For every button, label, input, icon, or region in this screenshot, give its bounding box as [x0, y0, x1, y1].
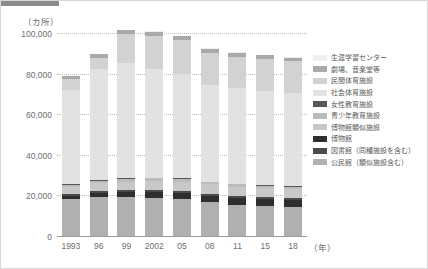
stacked-bar[interactable] — [62, 76, 80, 236]
legend-item[interactable]: 青少年教育施設 — [313, 110, 425, 122]
plot-area: 020,00040,00060,00080,000100,000 1993969… — [57, 33, 307, 236]
legend-swatch — [313, 136, 327, 142]
bar-slot: 08 — [196, 33, 224, 236]
legend-swatch — [313, 148, 327, 154]
x-axis-unit-label: （年） — [309, 241, 336, 253]
x-axis-tick-label: 11 — [233, 241, 242, 251]
corner-tab-decoration — [1, 1, 59, 6]
stacked-bar[interactable] — [256, 55, 274, 236]
bar-group: 1993969920020508111518 — [57, 33, 307, 236]
legend-item-label: 公民館（類似施設含む） — [331, 159, 408, 166]
bar-segment — [117, 34, 135, 62]
chart-figure: （カ所） 020,00040,00060,00080,000100,000 19… — [0, 0, 428, 269]
x-axis-tick-label: 96 — [94, 241, 103, 251]
legend-item[interactable]: 女性教育施設 — [313, 98, 425, 110]
bar-slot: 99 — [113, 33, 141, 236]
legend-swatch — [313, 101, 327, 107]
bar-segment — [256, 188, 274, 197]
bar-segment — [62, 79, 80, 90]
legend-item[interactable]: 劇場、音楽堂等 — [313, 64, 425, 76]
bar-slot: 18 — [279, 33, 307, 236]
x-axis-tick-label: 99 — [122, 241, 131, 251]
bar-segment — [201, 85, 219, 181]
bar-segment — [256, 91, 274, 185]
bar-segment — [62, 90, 80, 184]
legend-swatch — [313, 90, 327, 96]
bar-segment — [228, 205, 246, 236]
legend-item-label: 博物館 — [331, 135, 352, 142]
gridline-0: 0 — [57, 236, 307, 237]
y-axis-tick-label: 100,000 — [21, 29, 52, 39]
stacked-bar[interactable] — [90, 54, 108, 236]
bar-segment — [90, 197, 108, 236]
legend-swatch — [313, 113, 327, 119]
legend-swatch — [313, 55, 327, 61]
legend-swatch — [313, 78, 327, 84]
legend-item-label: 女性教育施設 — [331, 101, 373, 108]
bar-segment — [201, 202, 219, 236]
y-axis-unit-label: （カ所） — [23, 15, 59, 27]
legend-item[interactable]: 民間体育施設 — [313, 75, 425, 87]
legend-item-label: 生涯学習センター — [331, 54, 387, 61]
legend-item-label: 劇場、音楽堂等 — [331, 66, 380, 73]
bar-segment — [228, 187, 246, 196]
legend-swatch — [313, 159, 327, 165]
x-axis-tick-label: 15 — [261, 241, 270, 251]
x-axis-tick-label: 08 — [205, 241, 214, 251]
legend-item[interactable]: 博物館類似施設 — [313, 122, 425, 134]
bar-segment — [284, 200, 302, 207]
bar-slot: 96 — [85, 33, 113, 236]
bar-segment — [173, 199, 191, 236]
bar-segment — [256, 206, 274, 236]
bar-segment — [201, 53, 219, 85]
stacked-bar[interactable] — [201, 48, 219, 236]
legend-item-label: 図書館（同種施設を含む） — [331, 147, 415, 154]
legend-item-label: 青少年教育施設 — [331, 112, 380, 119]
legend-item[interactable]: 博物館 — [313, 133, 425, 145]
stacked-bar[interactable] — [228, 52, 246, 236]
bar-slot: 11 — [224, 33, 252, 236]
y-axis-tick-label: 60,000 — [26, 110, 52, 120]
bar-segment — [145, 181, 163, 190]
legend-item[interactable]: 公民館（類似施設含む） — [313, 156, 425, 168]
bar-segment — [117, 197, 135, 236]
x-axis-tick-label: 2002 — [145, 241, 164, 251]
bar-segment — [256, 199, 274, 206]
bar-slot: 05 — [168, 33, 196, 236]
bar-segment — [90, 69, 108, 180]
y-axis-tick-label: 20,000 — [26, 191, 52, 201]
y-axis-tick-label: 40,000 — [26, 151, 52, 161]
stacked-bar[interactable] — [145, 31, 163, 236]
bar-segment — [62, 199, 80, 236]
legend-swatch — [313, 66, 327, 72]
stacked-bar[interactable] — [117, 30, 135, 236]
bar-segment — [284, 207, 302, 236]
bar-slot: 2002 — [140, 33, 168, 236]
chart-legend: 生涯学習センター劇場、音楽堂等民間体育施設社会体育施設女性教育施設青少年教育施設… — [313, 52, 425, 168]
bar-segment — [90, 183, 108, 191]
legend-item[interactable]: 社会体育施設 — [313, 87, 425, 99]
bar-segment — [173, 182, 191, 191]
bar-slot: 15 — [251, 33, 279, 236]
legend-item[interactable]: 生涯学習センター — [313, 52, 425, 64]
bar-segment — [173, 40, 191, 73]
bar-segment — [256, 59, 274, 90]
legend-swatch — [313, 124, 327, 130]
x-axis-tick-label: 18 — [288, 241, 297, 251]
bar-segment — [117, 182, 135, 190]
bar-segment — [62, 187, 80, 194]
bar-segment — [145, 198, 163, 236]
bar-segment — [145, 69, 163, 178]
bar-segment — [228, 88, 246, 183]
y-axis-tick-label: 80,000 — [26, 70, 52, 80]
x-axis-tick-label: 1993 — [61, 241, 80, 251]
stacked-bar[interactable] — [284, 57, 302, 236]
legend-item[interactable]: 図書館（同種施設を含む） — [313, 145, 425, 157]
stacked-bar[interactable] — [173, 36, 191, 236]
bar-segment — [90, 58, 108, 69]
bar-segment — [201, 184, 219, 193]
bar-segment — [228, 57, 246, 88]
bar-segment — [117, 63, 135, 179]
legend-item-label: 民間体育施設 — [331, 77, 373, 84]
bar-segment — [284, 189, 302, 198]
